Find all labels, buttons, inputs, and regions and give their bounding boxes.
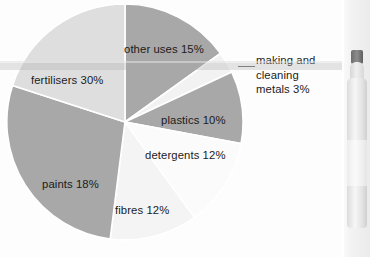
bottle-photo-fragment [342,0,370,257]
pie-label-fertilisers: fertilisers 30% [31,74,103,87]
bottle-label-band [347,140,367,186]
pie-label-making-and-cleaning-metals: making and cleaning metals 3% [256,53,340,97]
pie-label-metals-line-1: making and [256,53,340,68]
pie-label-paints: paints 18% [42,178,99,191]
pie-label-fibres: fibres 12% [115,204,169,217]
photo-divider [342,0,344,257]
pie-label-plastics: plastics 10% [161,114,226,127]
pie-label-leader-line [238,66,255,67]
pie-label-metals-line-3: metals 3% [256,82,340,97]
pie-label-metals-line-2: cleaning [256,68,340,83]
pie-label-other-uses: other uses 15% [124,43,204,56]
pie-label-detergents: detergents 12% [145,149,226,162]
figure-canvas: other uses 15% fertilisers 30% plastics … [0,0,370,257]
